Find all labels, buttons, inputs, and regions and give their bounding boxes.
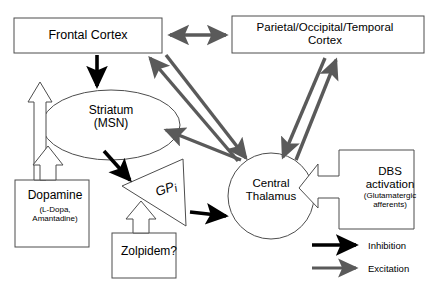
diagram-graphics xyxy=(0,0,440,292)
node-dbs-activation[interactable] xyxy=(299,126,414,229)
node-central-thalamus[interactable] xyxy=(228,153,314,239)
edge-frontal-cortex-to-thalamus xyxy=(166,55,246,158)
edge-zolpidem-to-gpi xyxy=(126,201,156,233)
diagram-canvas: Frontal Cortex Parietal/Occipital/Tempor… xyxy=(0,0,440,292)
edge-gpi-to-thalamus xyxy=(190,212,226,216)
node-parietal-occipital-temporal-cortex[interactable] xyxy=(232,16,424,53)
node-striatum[interactable] xyxy=(42,90,180,160)
node-frontal-cortex[interactable] xyxy=(14,18,162,53)
node-zolpidem[interactable] xyxy=(112,233,176,278)
node-dopamine[interactable] xyxy=(15,180,89,247)
